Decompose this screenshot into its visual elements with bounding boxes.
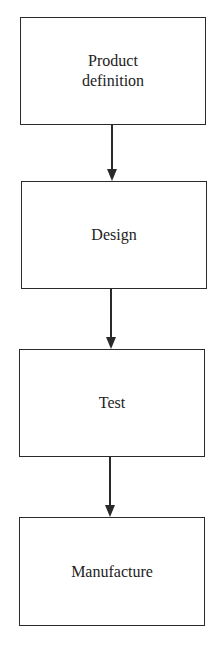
node-test: Test <box>19 349 205 457</box>
node-label: Manufacture <box>71 562 153 582</box>
node-label: Product definition <box>82 51 144 91</box>
node-manufacture: Manufacture <box>19 517 205 626</box>
node-label: Design <box>91 225 136 245</box>
node-label: Test <box>99 393 125 413</box>
node-product-definition: Product definition <box>20 17 206 125</box>
node-design: Design <box>21 181 207 289</box>
